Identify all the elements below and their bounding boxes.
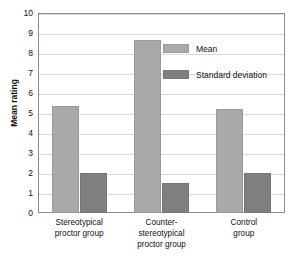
legend-item: Mean [163,40,283,57]
x-tick-label-line: proctor group [120,239,202,250]
x-tick-label-line: group [203,228,285,239]
y-tick-label: 5 [3,109,33,117]
x-axis-tick-labels: Stereotypicalproctor groupCounter-stereo… [38,217,285,263]
bar-chart: Mean rating 109876543210 Stereotypicalpr… [0,0,289,265]
x-tick-label-line: stereotypical [120,228,202,239]
x-tick-label-line: Stereotypical [38,217,120,228]
x-tick-label: Counter-stereotypicalproctor group [120,217,202,250]
bar-mean [52,106,79,213]
y-tick-label: 6 [3,89,33,97]
legend-swatch [163,44,189,53]
bar-sd [80,173,107,213]
bar-mean [216,109,243,213]
x-tick-label-line: Counter- [120,217,202,228]
chart-legend: MeanStandard deviation [163,40,283,92]
legend-item: Standard deviation [163,66,283,83]
y-tick-label: 9 [3,29,33,37]
y-tick-label: 8 [3,49,33,57]
y-tick-label: 7 [3,69,33,77]
y-tick-label: 0 [3,209,33,217]
x-tick-label: Controlgroup [203,217,285,239]
x-tick-label-line: Control [203,217,285,228]
x-tick-label: Stereotypicalproctor group [38,217,120,239]
bar-sd [244,173,271,213]
y-tick-label: 4 [3,129,33,137]
y-axis-tick-labels: 109876543210 [0,0,38,226]
y-tick-label: 1 [3,189,33,197]
y-tick-label: 10 [3,9,33,17]
x-tick-label-line: proctor group [38,228,120,239]
y-tick-label: 3 [3,149,33,157]
legend-swatch [163,70,189,79]
legend-label: Mean [196,44,217,54]
legend-label: Standard deviation [196,70,267,80]
y-tick-label: 2 [3,169,33,177]
bar-sd [162,183,189,213]
bar-mean [134,40,161,213]
